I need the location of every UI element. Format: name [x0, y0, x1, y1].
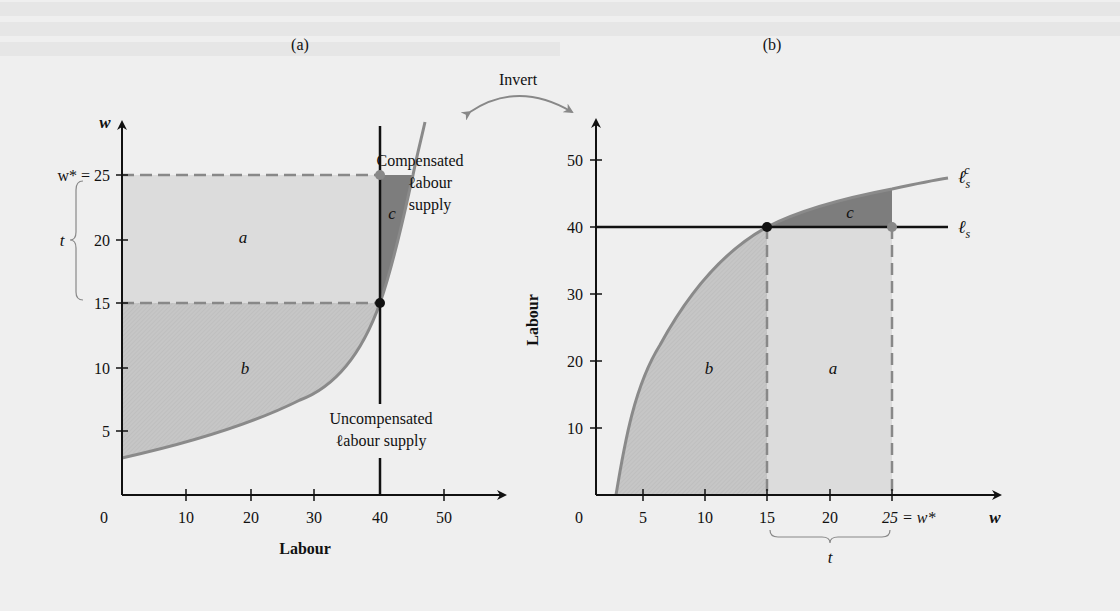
panel-b: (b) — [524, 36, 1001, 567]
x-tick-label-20-right: 20 — [822, 509, 838, 526]
region-label-a-left: a — [239, 228, 248, 247]
compensated-label-line2: ℓabour — [408, 174, 453, 191]
invert-arrow-group: Invert — [470, 71, 572, 112]
x-tick-label-10: 10 — [178, 509, 194, 526]
invert-label: Invert — [499, 71, 538, 88]
curve-label-lsc-sub: s — [966, 177, 971, 191]
line-label-ls: ℓs — [958, 217, 971, 241]
region-label-c-right: c — [846, 203, 854, 222]
panel-b-label: (b) — [763, 36, 782, 54]
point-compensated-right — [887, 222, 897, 232]
y-tick-label-20-right: 20 — [567, 353, 583, 370]
brace-label-t-right: t — [828, 548, 834, 567]
y-tick-label-10-right: 10 — [567, 420, 583, 437]
line-label-ls-sub: s — [966, 227, 971, 241]
x-tick-label-50: 50 — [436, 509, 452, 526]
y-tick-label-15: 15 — [94, 295, 110, 312]
brace-t-right — [770, 530, 890, 543]
uncompensated-label-line2: ℓabour supply — [336, 432, 427, 450]
panel-a: (a) w — [57, 36, 505, 557]
y-tick-label-20: 20 — [94, 232, 110, 249]
point-compensated-w25 — [375, 170, 385, 180]
x-tick-label-25-right: 25 = w* — [882, 509, 935, 526]
x-axis-label-labour: Labour — [279, 540, 331, 557]
region-label-c-left: c — [388, 204, 396, 223]
curve-label-lsc: ℓsc — [958, 163, 971, 191]
y-tick-label-40-right: 40 — [567, 219, 583, 236]
x-tick-label-15-right: 15 — [759, 509, 775, 526]
curve-label-lsc-sup: c — [964, 163, 970, 177]
compensated-label-line3: supply — [409, 196, 452, 214]
figure-canvas: (a) w — [0, 0, 1120, 611]
y-tick-label-10: 10 — [94, 360, 110, 377]
x-tick-label-5-right: 5 — [639, 509, 647, 526]
y-axis-label-labour-right: Labour — [524, 294, 541, 346]
y-tick-label-50-right: 50 — [567, 152, 583, 169]
region-c-right — [767, 189, 892, 227]
point-equilibrium-right — [762, 222, 772, 232]
x-tick-label-10-right: 10 — [697, 509, 713, 526]
panel-a-label: (a) — [291, 36, 309, 54]
x-tick-label-20: 20 — [243, 509, 259, 526]
x-axis-label-w-right: w — [989, 508, 1001, 527]
y-tick-label-25: w* = 25 — [57, 167, 110, 184]
region-label-b-right: b — [705, 359, 714, 378]
brace-t-left — [70, 181, 83, 300]
region-b-right — [616, 227, 767, 495]
y-axis-label-w: w — [99, 113, 111, 132]
y-tick-label-5: 5 — [102, 423, 110, 440]
origin-label-left: 0 — [100, 509, 108, 526]
x-tick-label-40: 40 — [372, 509, 388, 526]
x-tick-label-30: 30 — [306, 509, 322, 526]
origin-label-right: 0 — [575, 509, 583, 526]
invert-arrow — [470, 96, 572, 112]
compensated-label-line1: Compensated — [376, 152, 463, 170]
uncompensated-label-line1: Uncompensated — [329, 410, 432, 428]
region-label-b-left: b — [241, 359, 250, 378]
point-equilibrium-w15 — [375, 298, 385, 308]
brace-label-t-left: t — [60, 231, 66, 250]
region-a-left — [122, 175, 380, 303]
y-tick-label-30-right: 30 — [567, 286, 583, 303]
region-label-a-right: a — [829, 359, 838, 378]
